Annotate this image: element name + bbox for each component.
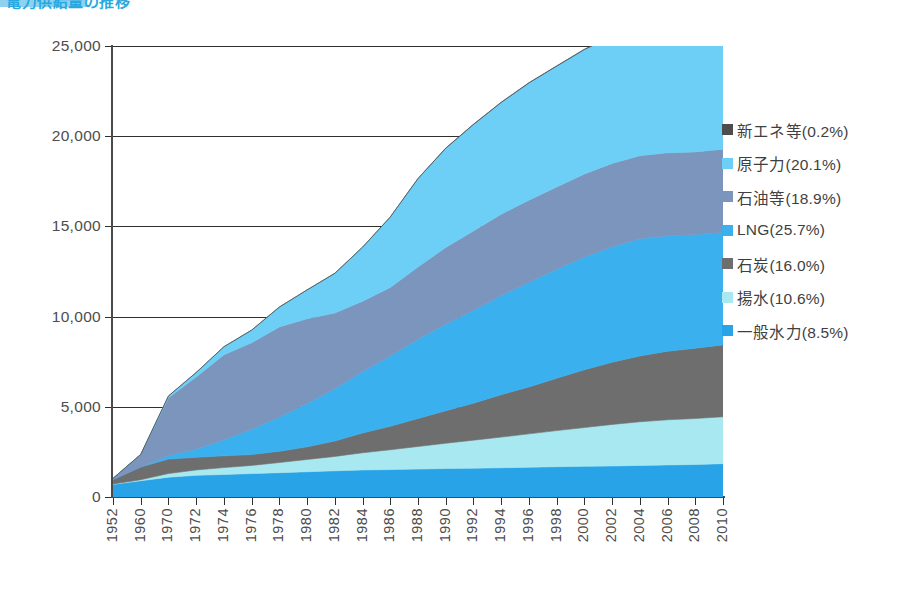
x-axis-label: 1986 bbox=[381, 508, 397, 542]
x-axis-tick bbox=[363, 498, 364, 505]
x-axis-label: 1996 bbox=[520, 508, 536, 542]
x-axis-tick bbox=[307, 498, 308, 505]
y-axis-label-box: 0 bbox=[0, 488, 101, 504]
x-axis-tick bbox=[418, 498, 419, 505]
x-axis-label: 1980 bbox=[298, 508, 314, 542]
legend-swatch-icon bbox=[722, 258, 733, 269]
x-axis-tick bbox=[168, 498, 169, 505]
page-title: 電力供給量の推移 bbox=[6, 0, 130, 11]
x-axis-tick bbox=[695, 498, 696, 505]
x-axis-label: 1992 bbox=[464, 508, 480, 542]
legend-swatch-icon bbox=[722, 325, 733, 336]
chart-plot-area bbox=[113, 46, 723, 497]
legend-item-label: LNG(25.7%) bbox=[737, 221, 825, 239]
x-axis-tick bbox=[640, 498, 641, 505]
x-axis-label: 1998 bbox=[548, 508, 564, 542]
x-axis-tick bbox=[141, 498, 142, 505]
x-axis-label: 1972 bbox=[187, 508, 203, 542]
x-axis-label: 1982 bbox=[326, 508, 342, 542]
y-axis-label: 25,000 bbox=[13, 37, 101, 55]
x-axis-label: 1976 bbox=[243, 508, 259, 542]
x-axis-tick bbox=[501, 498, 502, 505]
chart-legend: 新エネ等(0.2%)原子力(20.1%)石油等(18.9%)LNG(25.7%)… bbox=[722, 113, 904, 348]
x-axis-tick bbox=[473, 498, 474, 505]
legend-item[interactable]: LNG(25.7%) bbox=[722, 214, 904, 248]
x-axis-label: 1978 bbox=[270, 508, 286, 542]
x-axis-tick bbox=[557, 498, 558, 505]
x-axis-tick bbox=[668, 498, 669, 505]
legend-item[interactable]: 石炭(16.0%) bbox=[722, 247, 904, 281]
legend-swatch-icon bbox=[722, 124, 733, 135]
x-axis-label: 1984 bbox=[354, 508, 370, 542]
x-axis-tick bbox=[279, 498, 280, 505]
x-axis-tick bbox=[196, 498, 197, 505]
x-axis-tick bbox=[584, 498, 585, 505]
x-axis-label: 1952 bbox=[104, 508, 120, 542]
x-axis-label: 1988 bbox=[409, 508, 425, 542]
legend-item[interactable]: 一般水力(8.5%) bbox=[722, 314, 904, 348]
y-axis-label-box: 15,000 bbox=[0, 217, 101, 233]
x-axis-tick bbox=[612, 498, 613, 505]
x-axis-tick bbox=[252, 498, 253, 505]
x-axis-label: 2000 bbox=[575, 508, 591, 542]
legend-item[interactable]: 原子力(20.1%) bbox=[722, 147, 904, 181]
x-axis-label: 2004 bbox=[631, 508, 647, 542]
legend-item-label: 石炭(16.0%) bbox=[737, 253, 825, 275]
x-axis-label: 1960 bbox=[132, 508, 148, 542]
legend-item-label: 新エネ等(0.2%) bbox=[737, 119, 849, 141]
x-axis-label: 1974 bbox=[215, 508, 231, 542]
legend-item[interactable]: 石油等(18.9%) bbox=[722, 180, 904, 214]
legend-item-label: 石油等(18.9%) bbox=[737, 186, 841, 208]
x-axis-tick bbox=[113, 498, 114, 505]
y-axis-label-box: 5,000 bbox=[0, 398, 101, 414]
legend-item-label: 一般水力(8.5%) bbox=[737, 320, 849, 342]
x-axis-tick bbox=[529, 498, 530, 505]
page-title-strip: 電力供給量の推移 bbox=[0, 0, 904, 12]
legend-swatch-icon bbox=[722, 292, 733, 303]
y-axis-label: 5,000 bbox=[13, 398, 101, 416]
y-axis-label: 20,000 bbox=[13, 127, 101, 145]
y-axis-label-box: 10,000 bbox=[0, 308, 101, 324]
x-axis-label: 1990 bbox=[437, 508, 453, 542]
legend-swatch-icon bbox=[722, 225, 733, 236]
legend-item[interactable]: 新エネ等(0.2%) bbox=[722, 113, 904, 147]
x-axis-label: 1970 bbox=[159, 508, 175, 542]
x-axis-tick bbox=[723, 498, 724, 505]
x-axis-tick bbox=[224, 498, 225, 505]
legend-item[interactable]: 揚水(10.6%) bbox=[722, 281, 904, 315]
y-axis-label-box: 20,000 bbox=[0, 127, 101, 143]
x-axis-label: 2010 bbox=[714, 508, 730, 542]
x-axis-label: 2006 bbox=[659, 508, 675, 542]
legend-item-label: 原子力(20.1%) bbox=[737, 152, 841, 174]
y-axis-label: 0 bbox=[13, 488, 101, 506]
x-axis-label: 2008 bbox=[686, 508, 702, 542]
y-axis-label-box: 25,000 bbox=[0, 37, 101, 53]
y-axis-label: 15,000 bbox=[13, 217, 101, 235]
legend-swatch-icon bbox=[722, 158, 733, 169]
legend-item-label: 揚水(10.6%) bbox=[737, 286, 825, 308]
x-axis-tick bbox=[335, 498, 336, 505]
x-axis-tick bbox=[446, 498, 447, 505]
x-axis-label: 2002 bbox=[603, 508, 619, 542]
x-axis-label: 1994 bbox=[492, 508, 508, 542]
x-axis-tick bbox=[390, 498, 391, 505]
y-axis-label: 10,000 bbox=[13, 308, 101, 326]
legend-swatch-icon bbox=[722, 191, 733, 202]
stacked-area-chart bbox=[113, 46, 723, 497]
